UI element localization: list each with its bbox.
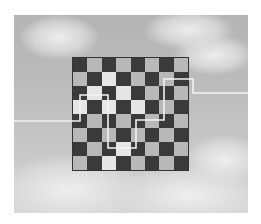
path-line [0,0,261,224]
